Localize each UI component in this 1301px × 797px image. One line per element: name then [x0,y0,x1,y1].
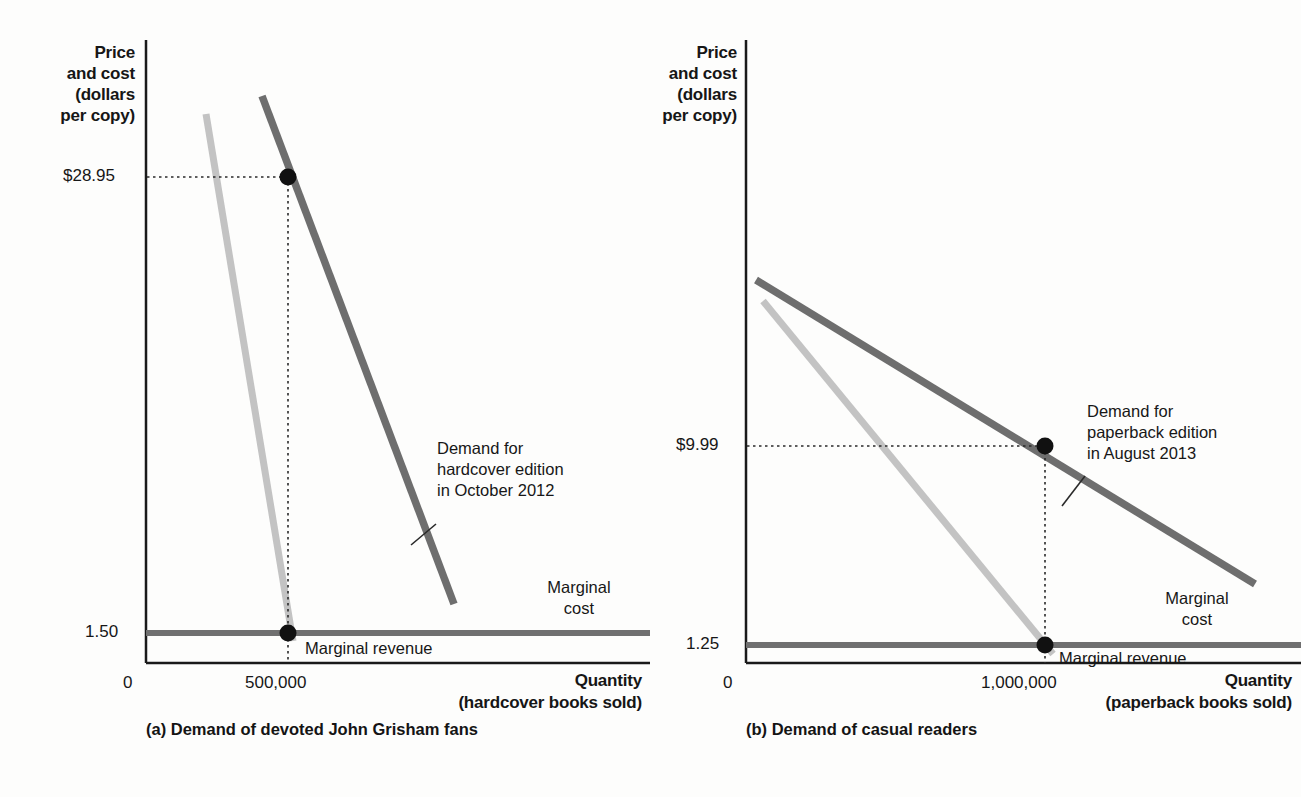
panel-b-caption: (b) Demand of casual readers [746,720,977,739]
panel-b-mr-mc-intersection-point [1037,637,1054,654]
panel-a-price-label: $28.95 [63,166,115,186]
panel-b-x-axis-title: Quantity [1030,670,1292,691]
panel-a-origin-label: 0 [123,673,132,693]
panel-a-y-axis-title: Price and cost (dollars per copy) [20,42,135,126]
panel-b-price-point [1037,438,1054,455]
panel-b-marginal-cost-value: 1.25 [686,634,719,654]
panel-b-marginal-revenue-annotation: Marginal revenue [1059,648,1187,669]
panel-b: Price and cost (dollars per copy) $9.99 … [650,0,1301,797]
panel-a-marginal-revenue-line [206,114,293,641]
panel-a-marginal-revenue-annotation: Marginal revenue [305,638,433,659]
panel-b-marginal-revenue-line [763,301,1053,654]
panel-b-y-axis-title: Price and cost (dollars per copy) [622,42,737,126]
panel-a-demand-annotation: Demand for hardcover edition in October … [437,438,564,501]
panel-a: Price and cost (dollars per copy) $28.95… [0,0,650,797]
panel-a-marginal-cost-annotation: Marginal cost [524,577,634,619]
panel-b-demand-leader-line [1062,476,1085,506]
panel-a-x-axis-title: Quantity [380,670,642,691]
panel-b-origin-label: 0 [723,673,732,693]
panel-a-mr-mc-intersection-point [280,625,297,642]
figure-container: Price and cost (dollars per copy) $28.95… [0,0,1301,797]
panel-b-marginal-cost-annotation: Marginal cost [1142,588,1252,630]
panel-a-marginal-cost-value: 1.50 [85,622,118,642]
panel-a-caption: (a) Demand of devoted John Grisham fans [146,720,478,739]
panel-a-x-tick-label: 500,000 [245,673,306,693]
panel-b-demand-annotation: Demand for paperback edition in August 2… [1087,401,1217,464]
panel-b-x-axis-subtitle: (paperback books sold) [980,692,1292,713]
panel-a-x-axis-subtitle: (hardcover books sold) [330,692,642,713]
panel-b-price-label: $9.99 [676,435,719,455]
panel-a-price-point [280,169,297,186]
